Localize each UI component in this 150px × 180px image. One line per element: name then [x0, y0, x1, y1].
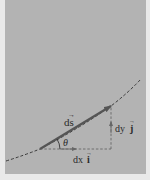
j-hat-arrow-glyph: → [129, 118, 135, 124]
j-hat-label: j [129, 123, 133, 134]
i-hat-arrow-glyph: → [86, 150, 92, 156]
ds-vector-arrow [40, 106, 111, 149]
dx-label: dx [73, 154, 83, 165]
dy-label: dy [115, 123, 125, 134]
displacement-diagram: ds → θ dx i → dy j → [0, 0, 150, 180]
theta-label: θ [63, 137, 68, 148]
theta-angle-arc [57, 139, 60, 149]
ds-vector-arrow-glyph: → [68, 111, 75, 119]
